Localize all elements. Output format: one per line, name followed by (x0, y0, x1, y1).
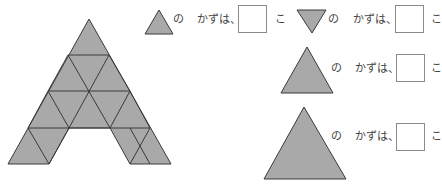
particle-no: の (173, 14, 184, 26)
answer-box-3[interactable] (396, 54, 425, 82)
count-label: かずは、 (353, 14, 397, 26)
count-label: かずは、 (355, 131, 399, 143)
medium-up-triangle-icon (281, 47, 333, 93)
particle-no: の (331, 131, 342, 143)
unit-ko: こ (431, 131, 442, 143)
unit-ko: こ (431, 14, 442, 26)
answer-box-2[interactable] (395, 5, 424, 33)
unit-ko: こ (431, 63, 442, 75)
particle-no: の (331, 63, 342, 75)
answer-box-1[interactable] (238, 5, 267, 33)
small-up-triangle-icon (145, 10, 173, 34)
count-label: かずは、 (355, 63, 399, 75)
small-down-triangle-icon (297, 10, 326, 33)
large-up-triangle-icon (264, 107, 346, 179)
answer-box-4[interactable] (396, 123, 425, 151)
particle-no: の (328, 14, 339, 26)
unit-ko: こ (275, 14, 286, 26)
count-label: かずは、 (197, 14, 241, 26)
